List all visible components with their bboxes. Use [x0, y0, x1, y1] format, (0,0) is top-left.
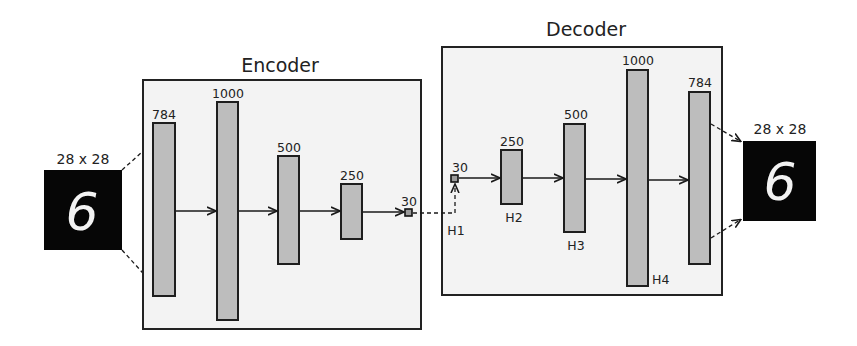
decoder-layer-1-bar [501, 150, 522, 204]
decoder-code-units: 30 [452, 160, 468, 175]
decoder-layer-4-units: 784 [688, 75, 712, 90]
autoencoder-diagram: 28 x 28 6 Encoder 784 1000 500 250 30 De… [0, 0, 857, 346]
encoder-code-units: 30 [401, 194, 417, 209]
decoder-title: Decoder [546, 18, 626, 40]
encoder-layer-4-bar [341, 184, 362, 239]
decoder-h4-label: H4 [652, 272, 669, 287]
encoder-layer-2-units: 1000 [212, 86, 244, 101]
output-digit-glyph: 6 [763, 152, 796, 212]
decoder-layer-2-bar [564, 124, 585, 232]
decoder-panel: Decoder 30 H1 250 H2 500 H3 1000 H4 784 [442, 18, 722, 295]
decoder-h2-label: H2 [505, 210, 522, 225]
input-image-group: 28 x 28 6 [44, 151, 122, 250]
encoder-title: Encoder [241, 54, 319, 76]
output-image-group: 28 x 28 6 [743, 121, 816, 221]
encoder-layer-1-bar [153, 123, 175, 296]
output-image-size-label: 28 x 28 [754, 121, 807, 137]
decoder-h1-label: H1 [447, 223, 464, 238]
encoder-layer-3-units: 500 [277, 140, 301, 155]
input-image-size-label: 28 x 28 [57, 151, 110, 167]
decoder-layer-3-units: 1000 [622, 53, 654, 68]
input-digit-glyph: 6 [65, 182, 98, 242]
encoder-code-node [405, 209, 412, 216]
decoder-layer-2-units: 500 [564, 107, 588, 122]
decoder-layer-3-bar [627, 70, 648, 286]
encoder-panel: Encoder 784 1000 500 250 30 [143, 54, 421, 329]
decoder-layer-4-bar [689, 92, 710, 264]
encoder-layer-2-bar [217, 102, 238, 320]
decoder-h3-label: H3 [567, 238, 584, 253]
encoder-layer-1-units: 784 [152, 107, 176, 122]
decoder-code-node [451, 175, 458, 182]
decoder-layer-1-units: 250 [500, 134, 524, 149]
encoder-layer-4-units: 250 [340, 168, 364, 183]
encoder-layer-3-bar [278, 156, 299, 264]
